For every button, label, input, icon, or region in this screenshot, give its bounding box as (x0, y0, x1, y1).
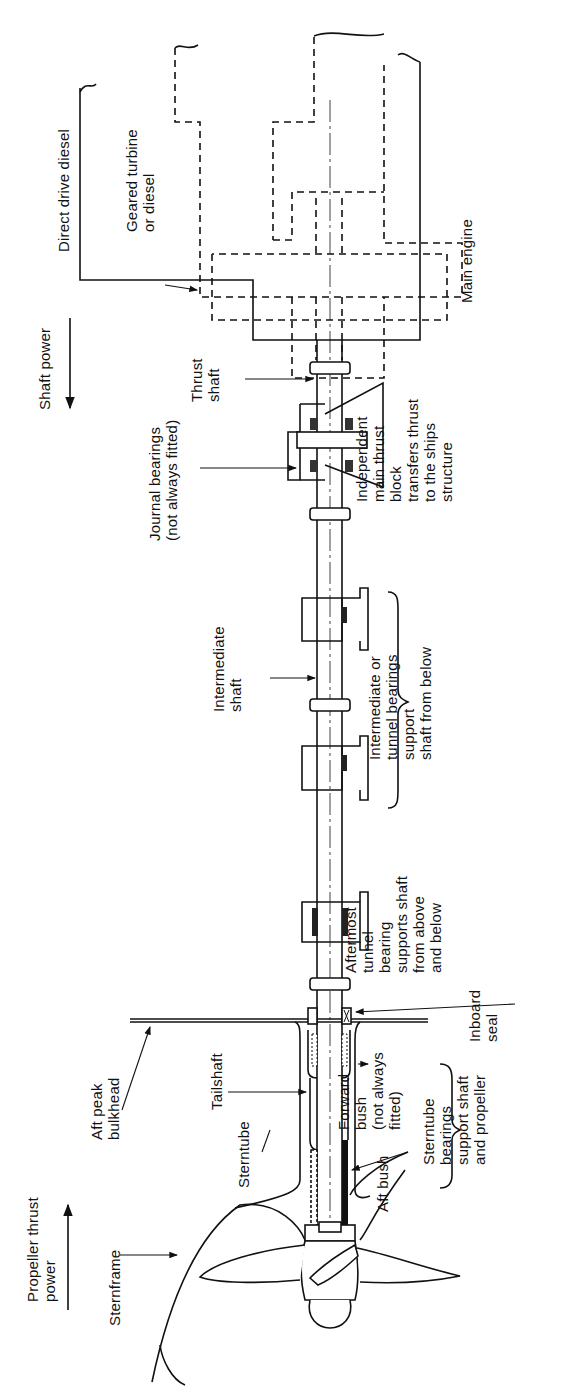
break-mark (175, 45, 198, 48)
aft-peak-bulkhead (130, 1019, 428, 1022)
label-journal-bearings: Journal bearings (not always fitted) (146, 420, 180, 541)
label-shaft-power: Shaft power (36, 328, 53, 410)
label-inboard-seal: Inboard seal (466, 990, 500, 1042)
tunnel-bearing (302, 588, 368, 650)
label-direct-drive-diesel: Direct drive diesel (55, 129, 72, 252)
propeller (200, 1222, 460, 1328)
label-geared-turbine: Geared turbine or diesel (123, 129, 157, 232)
label-tailshaft: Tailshaft (208, 1053, 225, 1110)
shafting-diagram (0, 0, 575, 1400)
label-sterntube: Sterntube (235, 1121, 252, 1188)
break-mark (314, 33, 384, 36)
geared-turbine-outline (175, 37, 462, 378)
label-aftermost-bearing: Aftermost tunnel bearing supports shaft … (342, 876, 444, 973)
label-main-engine: Main engine (458, 219, 475, 303)
label-sternframe: Sternframe (106, 1250, 123, 1326)
label-aft-bush: Aft bush (374, 1155, 391, 1212)
label-intermediate-shaft: Intermediate shaft (210, 626, 244, 712)
label-forward-bush: Forward bush (not always fitted) (335, 1052, 403, 1130)
label-sterntube-bearings: Sterntube bearings support shaft and pro… (420, 1075, 488, 1165)
label-tunnel-bearings: Intermediate or tunnel bearings support … (366, 647, 434, 760)
label-thrust-shaft: Thrust shaft (188, 358, 222, 402)
label-thrust-block: Independent main thrust block transfers … (353, 399, 455, 502)
tunnel-bearing (302, 736, 368, 800)
aft-bush (342, 1140, 348, 1228)
label-aft-peak-bulkhead: Aft peak bulkhead (88, 1078, 122, 1141)
label-propeller-thrust: Propeller thrust power (24, 1197, 58, 1302)
